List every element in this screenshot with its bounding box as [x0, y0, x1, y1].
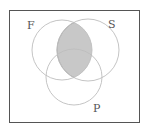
- label-s: S: [108, 18, 116, 31]
- label-p: P: [93, 102, 101, 115]
- venn-diagram: F S P: [0, 0, 145, 128]
- label-f: F: [27, 19, 35, 32]
